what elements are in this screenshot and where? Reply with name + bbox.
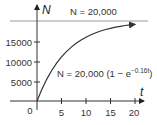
formula-annotation: N = 20,000 (1 − e−0.16t) xyxy=(57,67,152,79)
data-curve xyxy=(37,24,135,101)
asymptote-label: N = 20,000 xyxy=(70,6,117,17)
y-tick-label-5000: 5000 xyxy=(11,77,32,88)
y-tick-label-10000: 10000 xyxy=(6,57,32,68)
x-tick-label-5: 5 xyxy=(59,107,64,118)
y-tick-label-15000: 15000 xyxy=(6,37,32,48)
chart: N = 20,000 0 5 10 15 20 5000 10000 15000… xyxy=(0,0,157,125)
x-tick-label-10: 10 xyxy=(81,107,92,118)
x-axis-label: t xyxy=(140,85,144,99)
y-axis-label: N xyxy=(42,3,51,17)
x-tick-label-15: 15 xyxy=(105,107,116,118)
x-tick-label-0: 0 xyxy=(27,105,32,116)
x-tick-label-20: 20 xyxy=(129,107,140,118)
